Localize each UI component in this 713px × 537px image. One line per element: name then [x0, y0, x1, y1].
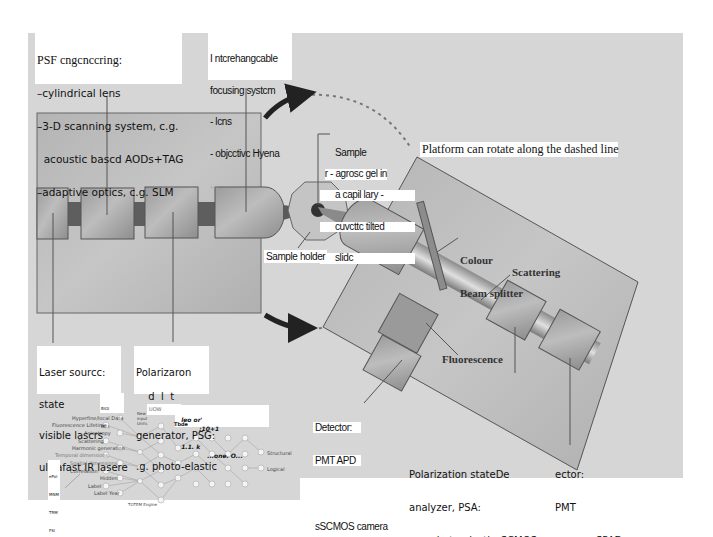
fluorescence-label: Fluorescence [440, 353, 505, 366]
detector-label: Detector: PMT APD sSCMOS camera [313, 400, 361, 537]
sample-line: cuvcttc tilted [320, 222, 415, 233]
sample-holder-label: Sample holder [264, 250, 327, 263]
sample-line: r - agrosc gel in [325, 169, 387, 180]
nn-input: Anisotropy [84, 430, 111, 436]
beam-segment [198, 202, 215, 226]
laser-source-label: Laser sourcc: state visible lascrs ultra… [37, 346, 121, 394]
rotation-arrow-bottom [265, 315, 303, 328]
nn-formula: 1.1. k [181, 443, 200, 450]
sample-label: Sample r - agrosc gel in a capil lary - … [318, 126, 417, 275]
psf-line: –adaptive optics, c.g. SLM [37, 187, 180, 198]
nn-formula-prefix: Tbde [174, 421, 188, 427]
nn-left-item: FSI [49, 528, 59, 534]
detector-line: sSCMOS camera [313, 521, 387, 532]
nn-input: Temporal dimensions [55, 452, 108, 458]
nn-formula: ...one. O... [207, 452, 242, 459]
psg-line: Polarizaron [136, 368, 207, 379]
sample-line: slidc [320, 253, 415, 264]
nn-input-header: New input Units [137, 411, 149, 426]
splitter-line: Beam splitter [460, 288, 523, 299]
nn-input: Spatial dimensions [70, 460, 117, 466]
focusing-line: ... [210, 180, 290, 191]
rotation-path-bottom [305, 328, 322, 330]
detector-line: Detector: [313, 422, 361, 433]
focusing-system-label: I ntcrehangcable focusing systcm - lcns … [208, 32, 292, 80]
nn-left-item: MNM [49, 492, 59, 498]
focusing-line: - lcns [210, 117, 290, 128]
psf-line: acoustic bascd AODs+TAG [37, 154, 180, 165]
sample-title: Sample [320, 148, 415, 159]
nn-input: Scattering [78, 438, 104, 444]
detector-right-line: ector: [555, 469, 692, 480]
psg-fragment: d l t [140, 391, 176, 403]
nn-output: Structural [267, 450, 292, 456]
nn-input: Fluorescence Lifetime [52, 422, 107, 428]
platform-rotation-note: Platform can rotate along the dashed lin… [420, 142, 618, 157]
psf-line: –cylindrical lens [37, 88, 180, 99]
nn-input: Label [88, 483, 102, 489]
focusing-line: focusing systcm [210, 86, 290, 97]
psf-engineering-label: PSF cngcnccring: –cylindrical lens –3-D … [35, 32, 182, 84]
nn-input: Correlation [70, 468, 98, 474]
detector-right-label: ector: PMT camera SPAD array (SPC2, MPD,… [553, 446, 694, 537]
focusing-line: - objcctivc Hyena [210, 149, 290, 160]
nn-input: Hyperfine/local Data [72, 415, 123, 421]
detector-line [313, 488, 361, 499]
focusing-line: I ntcrehangcable [210, 54, 290, 65]
nn-left-item: ePol [49, 474, 59, 480]
detector-line: PMT APD [313, 455, 361, 466]
psf-title: PSF cngcnccring: [37, 55, 180, 66]
nn-formula: ;10+1 [199, 425, 219, 432]
detector-right-line: PMT [555, 502, 692, 513]
polarization-generator-label: Polarizaron generator, PSG: .g. photo-el… [134, 346, 209, 394]
nn-input: Label Year [94, 490, 120, 496]
polarization-analyzer-label: Polarization stateDe analyzer, PSA: c.g.… [407, 446, 539, 537]
nn-box-top: BIGI Ml. \ [100, 393, 124, 413]
nn-input: Hidden [100, 475, 118, 481]
psa-line: Polarization stateDe [409, 469, 537, 480]
splitter-line: Colour [460, 255, 523, 266]
nn-output: Logical [267, 466, 285, 472]
nn-left-box: ePol MNM TRM FSI EXT [48, 460, 60, 514]
laser-line: Laser sourcc: [39, 368, 119, 379]
nn-left-item: TRM [49, 510, 59, 516]
nn-formula-box: leo or' ;10+1 1.1. k ...one. O... [175, 405, 269, 427]
nn-box-text: BIGI [101, 406, 123, 412]
scattering-label: Scattering [510, 266, 562, 279]
nn-input: Harmonic generation [72, 445, 125, 451]
psa-line: analyzer, PSA: [409, 502, 537, 513]
psg-line: .g. photo-elastic [136, 462, 207, 473]
psf-line: –3-D scanning system, c.g. [37, 121, 180, 132]
sample-line: a capil lary - [320, 190, 415, 201]
nn-engine-label: TOTEM Engine [128, 502, 157, 508]
